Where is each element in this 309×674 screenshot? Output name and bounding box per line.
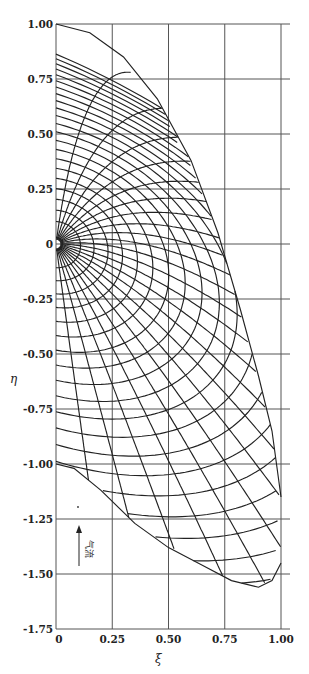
y-tick-label: -0.75: [23, 403, 53, 415]
loop-curve: [242, 579, 271, 583]
y-tick-label: 1.00: [27, 18, 53, 30]
airflow-label: 气流: [84, 540, 95, 558]
loop-curve: [193, 551, 275, 561]
dot-mark: [77, 506, 79, 508]
ray-curve: [59, 198, 206, 241]
ray-curve: [61, 245, 248, 342]
y-tick-label: -0.25: [23, 293, 53, 305]
y-tick-label: 0.75: [27, 73, 53, 85]
arrowhead-icon: [76, 525, 82, 533]
y-tick-label: -1.00: [23, 458, 53, 470]
y-axis-label: η: [10, 372, 18, 386]
y-tick-label: 0: [46, 238, 53, 250]
y-tick-label: 0.50: [27, 128, 53, 140]
ray-curve: [59, 247, 280, 547]
x-tick-label: 0.50: [156, 633, 182, 645]
chart: 1.000.750.500.250-0.25-0.50-0.75-1.00-1.…: [0, 0, 309, 674]
x-tick-label: 0.25: [99, 633, 125, 645]
y-tick-label: -1.75: [23, 623, 53, 635]
y-axis-ticks: 1.000.750.500.250-0.25-0.50-0.75-1.00-1.…: [23, 18, 53, 635]
loop-curve: [56, 392, 262, 456]
airflow-annotation: 气流: [76, 506, 95, 566]
ray-curve: [58, 248, 222, 576]
ray-curve: [59, 248, 265, 583]
x-tick-label: 0: [55, 633, 62, 645]
x-tick-label: 0.75: [212, 633, 238, 645]
y-tick-label: -1.25: [23, 513, 53, 525]
y-tick-label: -0.50: [23, 348, 53, 360]
loop-curve: [56, 75, 178, 138]
loop-curve: [128, 491, 276, 517]
y-tick-label: 0.25: [27, 183, 53, 195]
x-tick-label: 1.00: [268, 633, 294, 645]
loop-curve: [56, 69, 170, 127]
loop-curve: [156, 521, 278, 539]
x-axis-ticks: 00.250.500.751.00: [55, 633, 293, 645]
loop-curve: [56, 81, 177, 143]
y-tick-label: -1.50: [23, 568, 53, 580]
x-axis-label: ξ: [155, 652, 163, 666]
ray-curve: [60, 246, 265, 407]
